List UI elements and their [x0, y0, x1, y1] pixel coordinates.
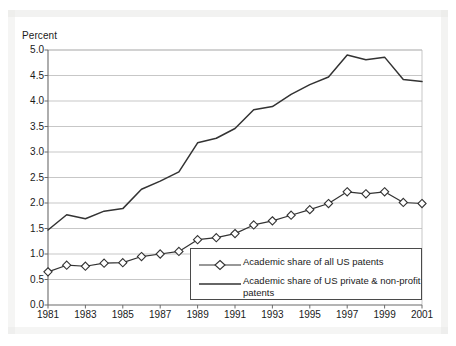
legend-item-academic-share-private-nonprofit: Academic share of US private & non-profi…	[199, 275, 420, 298]
legend: Academic share of all US patents Academi…	[190, 248, 422, 300]
legend-label: Academic share of all US patents	[243, 256, 383, 268]
line-chart: Percent 5.04.54.03.53.02.52.01.51.00.50.…	[0, 0, 456, 346]
chart-page: Percent 5.04.54.03.53.02.52.01.51.00.50.…	[0, 0, 456, 346]
legend-item-academic-share-all-us-patents: Academic share of all US patents	[199, 256, 383, 269]
legend-label: Academic share of US private & non-profi…	[243, 275, 420, 298]
legend-key-line-with-diamond-marker	[199, 257, 241, 269]
legend-key-plain-line	[199, 276, 241, 288]
